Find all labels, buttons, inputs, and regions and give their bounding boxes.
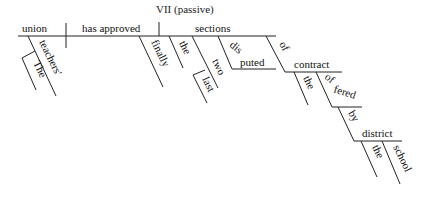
modifier-disputed-head: dis — [228, 38, 246, 55]
sentence-diagram: VII (passive) union has approved section… — [0, 0, 426, 204]
subject-word: union — [22, 22, 48, 34]
modifier-last: last — [200, 75, 217, 94]
modifier-school: school — [391, 143, 414, 174]
verb-word: has approved — [82, 22, 141, 34]
modifier-the-district: the — [370, 143, 387, 160]
modifier-two: two — [210, 57, 228, 78]
modifier-the-object: the — [177, 39, 194, 56]
modifier-line-the-subject — [22, 51, 36, 90]
modifier-offered: fered — [332, 82, 358, 101]
prep-object-contract: contract — [294, 58, 329, 70]
modifier-disputed: puted — [240, 56, 265, 68]
object-word: sections — [195, 22, 230, 34]
preposition-by: by — [346, 108, 362, 124]
diagram-title: VII (passive) — [156, 3, 214, 16]
prep-object-district: district — [362, 127, 393, 139]
preposition-of: of — [277, 39, 292, 53]
modifier-the-contract: the — [301, 74, 318, 91]
